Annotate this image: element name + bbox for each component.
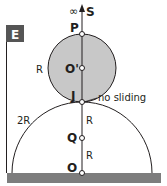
r-small-circle-label: R (36, 64, 43, 75)
o-prime-label: O' (65, 62, 79, 76)
q-label: Q (67, 131, 77, 145)
point-j (80, 100, 85, 105)
two-r-label: 2R (17, 115, 30, 126)
s-label: S (86, 5, 95, 19)
no-sliding-label: no sliding (98, 92, 146, 103)
diagram-canvas: E ∞ S P O' J Q O R R R 2R no sliding (0, 0, 167, 186)
r-upper-segment-label: R (86, 115, 93, 126)
infinity-label: ∞ (69, 5, 78, 18)
point-q (80, 136, 85, 141)
o-label: O (67, 161, 77, 175)
diagram-rolling-circles: E ∞ S P O' J Q O R R R 2R no sliding (0, 0, 167, 186)
p-label: P (70, 21, 79, 35)
point-p (80, 32, 85, 37)
panel-label: E (11, 28, 19, 42)
point-o (80, 171, 85, 176)
arrow-up-icon (79, 4, 85, 12)
r-lower-segment-label: R (86, 150, 93, 161)
point-o-prime (80, 66, 85, 71)
j-label: J (70, 89, 75, 103)
